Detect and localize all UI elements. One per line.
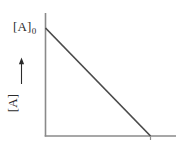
y-axis-title-container: [A] bbox=[6, 88, 22, 118]
initial-concentration-label: [A]0 bbox=[13, 20, 36, 33]
y-axis-arrow-icon bbox=[19, 58, 24, 85]
zero-order-concentration-figure: [A]0 [A] bbox=[0, 0, 179, 151]
concentration-decay-line bbox=[46, 28, 151, 136]
initial-concentration-subscript: 0 bbox=[32, 26, 37, 36]
y-axis-title: [A] bbox=[6, 88, 22, 118]
initial-concentration-base: [A] bbox=[13, 19, 32, 34]
